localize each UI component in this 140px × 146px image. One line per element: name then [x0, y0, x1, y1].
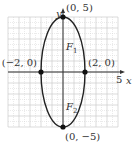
- bottom-vertex-point: [60, 124, 65, 129]
- left-vertex-point: [38, 69, 43, 74]
- ellipse-plot: (0, 5)(0, −5)(−2, 0)(2, 0)yx5F1F2: [0, 0, 140, 146]
- y-axis-label: y: [55, 8, 62, 19]
- left-vertex-label: (−2, 0): [2, 57, 37, 68]
- x-axis-label: x: [126, 75, 132, 86]
- F1-label: F1: [65, 41, 77, 55]
- top-vertex-label: (0, 5): [66, 2, 93, 13]
- F1-subscript: 1: [73, 47, 77, 55]
- right-vertex-label: (2, 0): [88, 57, 115, 68]
- F2-subscript: 2: [73, 107, 77, 115]
- bottom-vertex-label: (0, −5): [65, 131, 100, 142]
- right-vertex-point: [82, 69, 87, 74]
- F2-label: F2: [65, 101, 77, 115]
- x-tick-label-5: 5: [116, 74, 122, 85]
